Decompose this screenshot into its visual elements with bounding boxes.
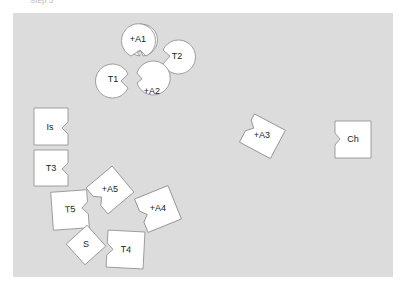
piece-t1[interactable]: T1: [96, 64, 128, 98]
piece-a3[interactable]: +A3: [239, 114, 285, 159]
svg-text:T2: T2: [172, 51, 183, 61]
svg-text:S: S: [83, 239, 89, 249]
svg-text:T4: T4: [121, 244, 132, 255]
piece-t3[interactable]: T3: [34, 150, 68, 186]
svg-text:T5: T5: [64, 204, 75, 215]
svg-text:+A1: +A1: [130, 34, 146, 44]
piece-is[interactable]: Is: [34, 108, 68, 145]
svg-text:T1: T1: [108, 74, 119, 84]
piece-a2[interactable]: +A2: [137, 61, 170, 96]
svg-text:+A2: +A2: [144, 86, 160, 96]
svg-text:Is: Is: [46, 122, 54, 132]
piece-t4[interactable]: T4: [106, 230, 145, 269]
svg-text:+A3: +A3: [254, 130, 270, 140]
pieces-layer: +A1 T2 T1 +A2 Is T3 +A3 Ch +A5 T5: [0, 0, 405, 286]
svg-text:T3: T3: [46, 163, 57, 173]
svg-text:Ch: Ch: [347, 134, 359, 144]
svg-text:+A4: +A4: [150, 203, 166, 213]
piece-t5[interactable]: T5: [51, 190, 90, 230]
piece-a5[interactable]: +A5: [86, 166, 134, 214]
svg-text:+A5: +A5: [102, 184, 118, 194]
piece-ch[interactable]: Ch: [335, 121, 371, 158]
piece-s[interactable]: S: [66, 225, 106, 265]
piece-a1[interactable]: +A1: [121, 24, 157, 56]
piece-a4[interactable]: +A4: [135, 186, 182, 233]
